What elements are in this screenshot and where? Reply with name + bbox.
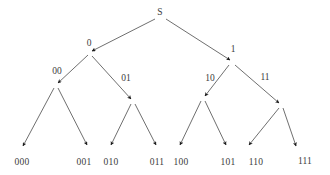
tree-edge-n0-to-n00 xyxy=(58,55,88,83)
leaf-label-100: 100 xyxy=(174,158,189,168)
tree-edge-root-to-n0 xyxy=(92,19,155,51)
node-label-10: 10 xyxy=(205,74,215,84)
edge-group xyxy=(23,19,296,146)
tree-edges-canvas xyxy=(0,0,330,175)
tree-edge-n00-to-l001 xyxy=(58,88,87,145)
tree-edge-n01-to-l010 xyxy=(111,104,131,145)
leaf-label-001: 001 xyxy=(77,158,92,168)
tree-edge-root-to-n1 xyxy=(166,19,230,60)
node-label-01: 01 xyxy=(121,74,131,84)
tree-edge-n11-to-l110 xyxy=(249,108,279,145)
leaf-label-010: 010 xyxy=(104,158,119,168)
node-label-0: 0 xyxy=(87,39,92,49)
leaf-label-110: 110 xyxy=(249,158,264,168)
leaf-label-011: 011 xyxy=(150,158,165,168)
leaf-label-000: 000 xyxy=(15,158,30,168)
tree-edge-n11-to-l111 xyxy=(283,108,296,146)
node-label-11: 11 xyxy=(260,73,269,83)
tree-edge-n10-to-l100 xyxy=(180,101,201,145)
tree-edge-n00-to-l000 xyxy=(23,88,54,146)
tree-edge-n10-to-l101 xyxy=(205,101,226,145)
leaf-label-101: 101 xyxy=(221,158,236,168)
tree-edge-n01-to-l011 xyxy=(135,104,156,145)
leaf-label-111: 111 xyxy=(298,157,312,167)
node-label-00: 00 xyxy=(52,67,62,77)
node-label-root: S xyxy=(157,8,162,18)
tree-edge-n1-to-n11 xyxy=(235,65,279,103)
binary-tree-diagram: S 0 1 00 01 10 11 000 001 010 011 100 10… xyxy=(0,0,330,175)
node-label-1: 1 xyxy=(231,45,236,55)
